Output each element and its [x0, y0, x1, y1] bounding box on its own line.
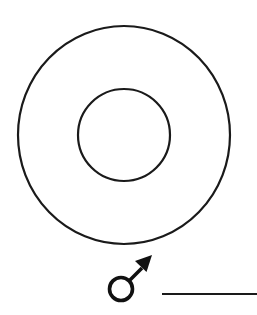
male-symbol-icon — [110, 255, 153, 301]
outer-circle — [18, 26, 230, 244]
inner-circle — [78, 89, 170, 181]
diagram-canvas — [0, 0, 257, 315]
concentric-circles — [18, 26, 230, 244]
answer-blank-line — [162, 293, 257, 295]
